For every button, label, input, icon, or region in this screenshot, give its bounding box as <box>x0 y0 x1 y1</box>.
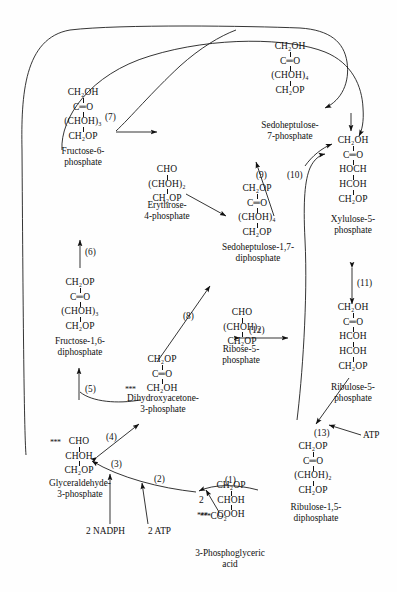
name-line-2: phosphate <box>206 355 276 366</box>
step-number-4: (4) <box>106 432 117 442</box>
mol-line: (CHOH)₄ <box>226 213 288 223</box>
mol-line: CH₂OP <box>48 466 110 476</box>
name-line-2: 3-phosphate <box>115 404 211 415</box>
name-line-2: diphosphate <box>42 347 118 358</box>
label-erythrose-4-phosphate: Erythrose- 4-phosphate <box>130 200 204 221</box>
mol-line: C═O <box>48 103 118 113</box>
name-line-2: phosphate <box>43 157 123 168</box>
label-3-phosphoglyceric-acid: 3-Phosphoglyceric acid <box>178 548 282 569</box>
mol-line-text: CH₂OH <box>147 383 178 393</box>
mol-line: CH₂OP <box>322 195 384 205</box>
step-number-6: (6) <box>85 247 96 257</box>
step-number-13: (13) <box>314 428 330 438</box>
arrow-atp-right-input <box>329 425 361 435</box>
mol-line: (CHOH)₃ <box>209 323 275 333</box>
mol-line: HCOH <box>322 332 384 342</box>
molecule-ribulose-1-5-diphosphate: CH₂OP C═O (CHOH)₂ CH₂OP <box>282 442 344 496</box>
name-line-1: Fructose-1,6- <box>42 336 118 347</box>
name-line-1: Sedoheptulose-1,7- <box>210 242 306 253</box>
mol-line: (CHOH)₂ <box>282 471 344 481</box>
arrow-step-8 <box>157 286 210 362</box>
molecule-ribulose-5-phosphate: CH₂OH C═O HCOH HCOH CH₂OP <box>322 303 384 371</box>
step-number-10: (10) <box>287 170 303 180</box>
mol-line: (CHOH)₂ <box>134 180 200 190</box>
molecule-glyceraldehyde-3-phosphate: *** CHO CHOH CH₂OP <box>48 437 110 476</box>
mol-line: C═O <box>322 151 384 161</box>
step-number-11: (11) <box>357 278 372 288</box>
label-sedoheptulose-1-7-diphosphate: Sedoheptulose-1,7- diphosphate <box>210 242 306 263</box>
mol-line: CH₂OP <box>226 184 288 194</box>
label-atp-lower: 2 ATP <box>148 526 171 536</box>
mol-line: C═O <box>282 457 344 467</box>
label-fructose-6-phosphate: Fructose-6- phosphate <box>43 146 123 167</box>
molecule-dihydroxyacetone-3-phosphate: CH₂OP C═O *** CH₂OH <box>131 355 193 394</box>
label-radioactive-star: *** <box>50 438 61 447</box>
arrow-step-10 <box>297 154 325 420</box>
label-glyceraldehyde-3-phosphate: Glyceraldehyde- 3-phosphate <box>38 478 122 499</box>
label-ribose-5-phosphate: Ribose-5- phosphate <box>206 344 276 365</box>
label-ribulose-1-5-diphosphate: Ribulose-1,5- diphosphate <box>278 502 354 523</box>
mol-line-text: CHOH <box>217 495 244 505</box>
mol-line: *** CHO <box>48 437 110 447</box>
mol-line: CHO <box>209 308 275 318</box>
step-number-3: (3) <box>111 459 122 469</box>
name-line-2: 7-phosphate <box>249 131 331 142</box>
name-line-1: Ribulose-5- <box>318 382 388 393</box>
molecule-sedoheptulose-1-7-diphosphate: CH₂OP C═O (CHOH)₄ CH₂OP <box>226 184 288 238</box>
step-number-1: (1) <box>225 475 236 485</box>
mol-line: CH₂OP <box>48 132 118 142</box>
mol-line: HCOH <box>322 180 384 190</box>
name-line-1: Glyceraldehyde- <box>38 478 122 489</box>
step-number-7: (7) <box>105 112 116 122</box>
molecule-sedoheptulose-7-phosphate: CH₂OH C═O (CHOH)₄ CH₂OP <box>255 42 325 96</box>
mol-line: HOCH <box>322 165 384 175</box>
name-line-1: Ribulose-1,5- <box>278 502 354 513</box>
mol-line: (CHOH)₃ <box>49 307 111 317</box>
name-line-1: Erythrose- <box>130 200 204 211</box>
mol-line: CH₂OP <box>255 86 325 96</box>
step-number-12: (12) <box>249 325 265 335</box>
name-line-2: 3-phosphate <box>38 489 122 500</box>
molecule-ribose-5-phosphate: CHO (CHOH)₃ CH₂OP <box>209 308 275 347</box>
mol-line: C═O <box>322 318 384 328</box>
name-line-2: diphosphate <box>278 513 354 524</box>
molecule-fructose-1-6-diphosphate: CH₂OP C═O (CHOH)₃ CH₂OP <box>49 278 111 332</box>
name-line-2: acid <box>178 559 282 570</box>
mol-line: C═O <box>131 370 193 380</box>
name-line-2: diphosphate <box>210 253 306 264</box>
mol-line: (CHOH)₄ <box>255 71 325 81</box>
mol-line: CHOH <box>48 452 110 462</box>
mol-line: CH₂OH <box>322 136 384 146</box>
label-fructose-1-6-diphosphate: Fructose-1,6- diphosphate <box>42 336 118 357</box>
mol-line: CH₂OP <box>49 322 111 332</box>
name-line-1: Fructose-6- <box>43 146 123 157</box>
label-ribulose-5-phosphate: Ribulose-5- phosphate <box>318 382 388 403</box>
mol-line-text: CHO <box>69 436 89 446</box>
name-line-2: 4-phosphate <box>130 211 204 222</box>
label-co2: ***CO₂ <box>200 511 227 521</box>
mol-line: HCOH <box>322 347 384 357</box>
mol-line: CH₂OP <box>322 362 384 372</box>
mol-line: C═O <box>49 293 111 303</box>
name-line-1: Dihydroxyacetone- <box>115 393 211 404</box>
name-line-1: 3-Phosphoglyceric <box>178 548 282 559</box>
mol-line: CH₂OP <box>49 278 111 288</box>
mol-line: CH₂OP <box>226 228 288 238</box>
label-atp-right: ATP <box>363 430 380 440</box>
mol-line: C═O <box>226 199 288 209</box>
arrow-atp-input <box>142 483 148 524</box>
label-dihydroxyacetone-3-phosphate: Dihydroxyacetone- 3-phosphate <box>115 393 211 414</box>
mol-line: CH₂OP <box>282 442 344 452</box>
step-number-5: (5) <box>85 384 96 394</box>
name-line-2: phosphate <box>318 393 388 404</box>
mol-line: C═O <box>255 57 325 67</box>
mol-line: CH₂OP <box>131 355 193 365</box>
mol-line: CH₂OH <box>48 88 118 98</box>
mol-line: CH₂OH <box>322 303 384 313</box>
calvin-cycle-diagram: CH₂OH C═O (CHOH)₃ CH₂OP Fructose-6- phos… <box>0 0 397 592</box>
label-nadph: 2 NADPH <box>86 526 125 536</box>
molecule-erythrose-4-phosphate: CHO (CHOH)₂ CH₂OP <box>134 165 200 204</box>
step-number-8: (8) <box>183 311 194 321</box>
label-radioactive-star: *** <box>200 512 211 521</box>
mol-line: CH₂OH <box>255 42 325 52</box>
